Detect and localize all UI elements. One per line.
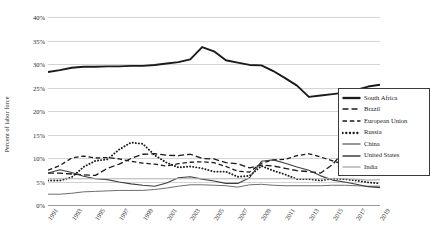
legend-line-icon: [342, 117, 361, 125]
x-tick-label: 2001: [165, 207, 178, 222]
legend-label: Russia: [364, 129, 382, 136]
y-tick-label: 10%: [2, 155, 48, 162]
legend-item[interactable]: Russia: [342, 127, 427, 139]
legend-line-icon: [342, 140, 361, 148]
legend-label: European Union: [364, 118, 407, 125]
legend-line-icon: [342, 105, 361, 113]
line-chart: Percent of labor force 40%35%30%25%20%15…: [0, 0, 432, 249]
y-tick-label: 40%: [2, 14, 48, 21]
legend-item[interactable]: South Africa: [342, 92, 427, 104]
chart-legend: South AfricaBrazilEuropean UnionRussiaCh…: [338, 88, 430, 176]
series-line: [48, 47, 380, 97]
y-tick-label: 25%: [2, 84, 48, 91]
y-tick-label: 0%: [2, 202, 48, 209]
legend-line-icon: [342, 129, 361, 137]
y-tick-label: 20%: [2, 108, 48, 115]
legend-item[interactable]: China: [342, 138, 427, 150]
x-axis-tick-labels: 1991199319951997199920012003200520072009…: [48, 205, 380, 249]
plot-area: [48, 17, 380, 205]
series-lines: [48, 17, 380, 205]
legend-line-icon: [342, 152, 361, 160]
x-tick-label: 1995: [94, 207, 107, 222]
series-line: [48, 184, 380, 194]
legend-label: Brazil: [364, 106, 380, 113]
legend-line-icon: [342, 94, 361, 102]
legend-item[interactable]: United States: [342, 150, 427, 162]
x-tick-label: 2011: [283, 207, 296, 221]
x-tick-label: 1997: [117, 207, 130, 222]
x-tick-label: 1999: [141, 207, 154, 222]
x-tick-label: 2019: [378, 207, 391, 222]
y-tick-label: 30%: [2, 61, 48, 68]
legend-line-icon: [342, 163, 361, 171]
y-axis-tick-labels: 40%35%30%25%20%15%10%5%0%: [0, 0, 48, 249]
x-tick-label: 2013: [307, 207, 320, 222]
legend-item[interactable]: European Union: [342, 115, 427, 127]
x-tick-label: 2015: [331, 207, 344, 222]
x-tick-label: 2005: [212, 207, 225, 222]
x-tick-label: 2017: [355, 207, 368, 222]
x-tick-label: 2003: [189, 207, 202, 222]
legend-item[interactable]: India: [342, 162, 427, 174]
y-tick-label: 5%: [2, 178, 48, 185]
y-tick-label: 15%: [2, 131, 48, 138]
x-tick-label: 1993: [70, 207, 83, 222]
legend-item[interactable]: Brazil: [342, 104, 427, 116]
x-tick-label: 2007: [236, 207, 249, 222]
legend-label: India: [364, 164, 378, 171]
x-tick-label: 2009: [260, 207, 273, 222]
legend-label: United States: [364, 152, 399, 159]
legend-label: South Africa: [364, 95, 398, 102]
x-tick-label: 1991: [46, 207, 59, 222]
legend-label: China: [364, 141, 380, 148]
y-tick-label: 35%: [2, 37, 48, 44]
